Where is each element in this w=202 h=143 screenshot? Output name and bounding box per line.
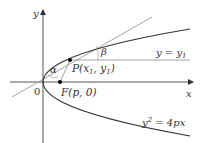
alpha-label: α	[50, 64, 57, 75]
curve-equation-label: y2 = 4px	[141, 116, 186, 128]
beta-label: β	[100, 46, 107, 57]
point-f-label: F(p, 0)	[60, 86, 97, 98]
horizontal-line-label: y = y1	[155, 47, 187, 60]
point-f	[58, 80, 62, 84]
y-axis-label: y	[32, 8, 39, 19]
origin-label: 0	[34, 86, 40, 97]
x-axis-label: x	[186, 88, 192, 99]
tangent-line	[12, 17, 152, 97]
parabola-diagram: y x 0 α β P(x1, y1) F(p, 0) y = y1 y2 = …	[0, 0, 202, 143]
point-p-label: P(x1, y1)	[71, 62, 115, 76]
focal-segment	[60, 60, 70, 82]
